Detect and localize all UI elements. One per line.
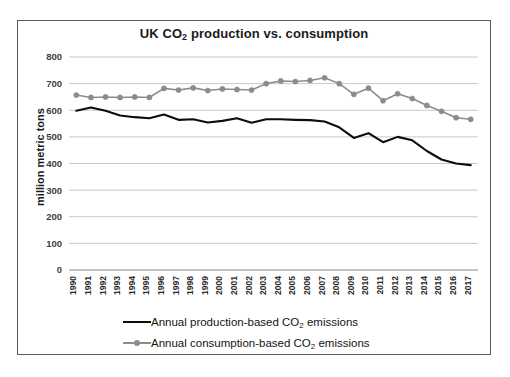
x-axis-tick-label: 2002 <box>244 276 254 295</box>
data-point-consumption <box>410 96 415 101</box>
x-axis-tick-label: 2010 <box>360 276 370 295</box>
x-axis-tick-label: 1996 <box>156 276 166 295</box>
legend-production-post: emissions <box>304 316 358 328</box>
legend-item-production: Annual production-based CO2 emissions <box>18 311 490 332</box>
x-axis-tick-label: 2007 <box>317 276 327 295</box>
data-point-consumption <box>205 88 210 93</box>
x-axis-tick-label: 2005 <box>287 276 297 295</box>
x-axis-tick-label: 2009 <box>346 276 356 295</box>
y-axis-tick-label: 600 <box>46 105 62 116</box>
data-point-consumption <box>234 87 239 92</box>
x-axis-tick-label: 2016 <box>448 276 458 295</box>
x-axis-tick-label: 2001 <box>229 276 239 295</box>
y-axis-tick-label: 0 <box>57 264 62 275</box>
data-point-consumption <box>220 86 225 91</box>
x-axis-tick-label: 2004 <box>273 276 283 295</box>
x-axis-tick-label: 2014 <box>419 276 429 295</box>
data-point-consumption <box>366 86 371 91</box>
legend-label-consumption: Annual consumption-based CO2 emissions <box>151 337 370 349</box>
x-axis-tick-label: 1999 <box>200 276 210 295</box>
y-axis-tick-label: 700 <box>46 78 62 89</box>
x-axis-tick-label: 2017 <box>463 276 473 295</box>
data-point-consumption <box>468 117 473 122</box>
legend-swatch-consumption-icon <box>123 337 151 349</box>
y-axis-tick-label: 400 <box>46 158 62 169</box>
x-axis-tick-label: 1991 <box>83 276 93 295</box>
x-axis-tick-label: 2003 <box>258 276 268 295</box>
data-point-consumption <box>132 94 137 99</box>
y-axis-tick-label: 300 <box>46 185 62 196</box>
legend-consumption-post: emissions <box>315 337 369 349</box>
x-axis-tick-label: 1998 <box>185 276 195 295</box>
x-axis-tick-label: 2011 <box>375 276 385 295</box>
y-axis-tick-label: 800 <box>46 51 62 62</box>
x-axis-tick-label: 2008 <box>331 276 341 295</box>
series-line-production <box>76 108 470 166</box>
chart-plot-area: 0100200300400500600700800199019911992199… <box>18 21 492 356</box>
y-axis-tick-label: 100 <box>46 238 62 249</box>
legend-production-pre: Annual production-based CO <box>151 316 299 328</box>
data-point-consumption <box>322 75 327 80</box>
data-point-consumption <box>395 91 400 96</box>
x-axis-tick-label: 2012 <box>390 276 400 295</box>
x-axis-tick-label: 1994 <box>127 276 137 295</box>
legend-consumption-pre: Annual consumption-based CO <box>151 337 311 349</box>
data-point-consumption <box>337 81 342 86</box>
data-point-consumption <box>380 98 385 103</box>
data-point-consumption <box>453 115 458 120</box>
data-point-consumption <box>147 95 152 100</box>
x-axis-tick-label: 2013 <box>404 276 414 295</box>
x-axis-tick-label: 1993 <box>112 276 122 295</box>
x-axis-tick-label: 2000 <box>214 276 224 295</box>
x-axis-tick-label: 1995 <box>141 276 151 295</box>
data-point-consumption <box>307 78 312 83</box>
data-point-consumption <box>293 79 298 84</box>
data-point-consumption <box>161 86 166 91</box>
x-axis-tick-label: 1997 <box>171 276 181 295</box>
legend-swatch-production-icon <box>123 316 151 328</box>
chart-container: UK CO2 production vs. consumption millio… <box>17 20 491 355</box>
data-point-consumption <box>278 78 283 83</box>
data-point-consumption <box>74 92 79 97</box>
x-axis-tick-label: 1990 <box>68 276 78 295</box>
y-axis-tick-label: 500 <box>46 131 62 142</box>
data-point-consumption <box>351 92 356 97</box>
data-point-consumption <box>176 87 181 92</box>
x-axis-tick-label: 2006 <box>302 276 312 295</box>
legend-production-subscript: 2 <box>299 321 303 330</box>
y-axis-tick-label: 200 <box>46 211 62 222</box>
data-point-consumption <box>118 95 123 100</box>
data-point-consumption <box>191 85 196 90</box>
data-point-consumption <box>439 109 444 114</box>
data-point-consumption <box>88 95 93 100</box>
x-axis-tick-label: 2015 <box>433 276 443 295</box>
x-axis-tick-label: 1992 <box>98 276 108 295</box>
data-point-consumption <box>249 87 254 92</box>
legend-item-consumption: Annual consumption-based CO2 emissions <box>18 332 490 353</box>
data-point-consumption <box>264 81 269 86</box>
legend-label-production: Annual production-based CO2 emissions <box>151 316 358 328</box>
chart-legend: Annual production-based CO2 emissions An… <box>18 311 490 353</box>
legend-consumption-subscript: 2 <box>311 342 315 351</box>
data-point-consumption <box>103 94 108 99</box>
data-point-consumption <box>424 103 429 108</box>
